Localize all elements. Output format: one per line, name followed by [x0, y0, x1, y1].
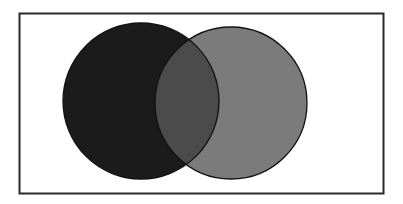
venn-diagram — [0, 0, 403, 204]
